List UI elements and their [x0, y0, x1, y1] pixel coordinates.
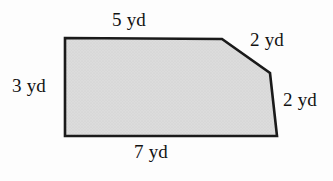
geometry-figure: 5 yd 3 yd 2 yd 2 yd 7 yd: [0, 0, 333, 181]
polygon-outline: [65, 38, 277, 136]
label-bottom-right-side: 2 yd: [283, 90, 317, 109]
label-top-right-bevel: 2 yd: [250, 30, 284, 49]
label-top-side: 5 yd: [112, 10, 146, 29]
label-bottom-side: 7 yd: [134, 142, 168, 161]
label-left-side: 3 yd: [12, 76, 46, 95]
